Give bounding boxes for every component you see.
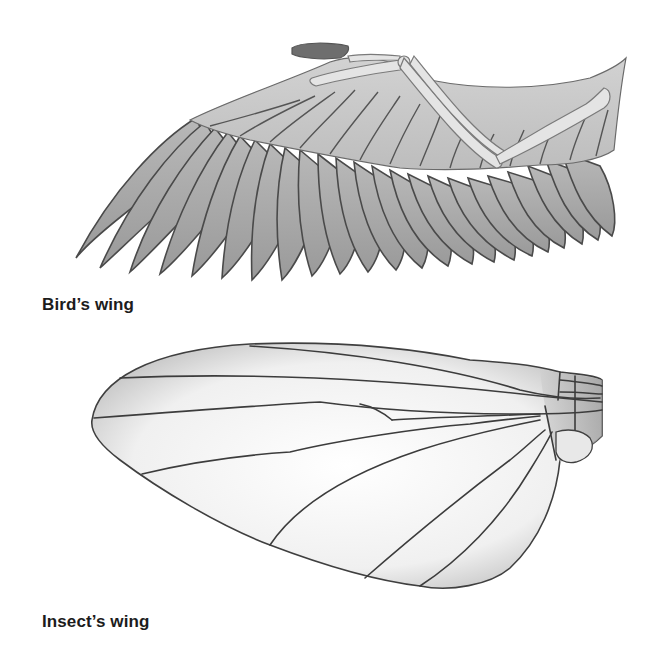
alula <box>292 43 349 59</box>
insect-wing-label: Insect’s wing <box>42 612 149 632</box>
bird-wing-illustration <box>0 0 666 290</box>
wing-outline <box>92 343 602 588</box>
bird-wing-label: Bird’s wing <box>42 295 134 315</box>
alula-lobe <box>556 430 592 463</box>
wing-veins <box>94 346 602 586</box>
wing-comparison-figure: Bird’s wing <box>0 0 666 651</box>
